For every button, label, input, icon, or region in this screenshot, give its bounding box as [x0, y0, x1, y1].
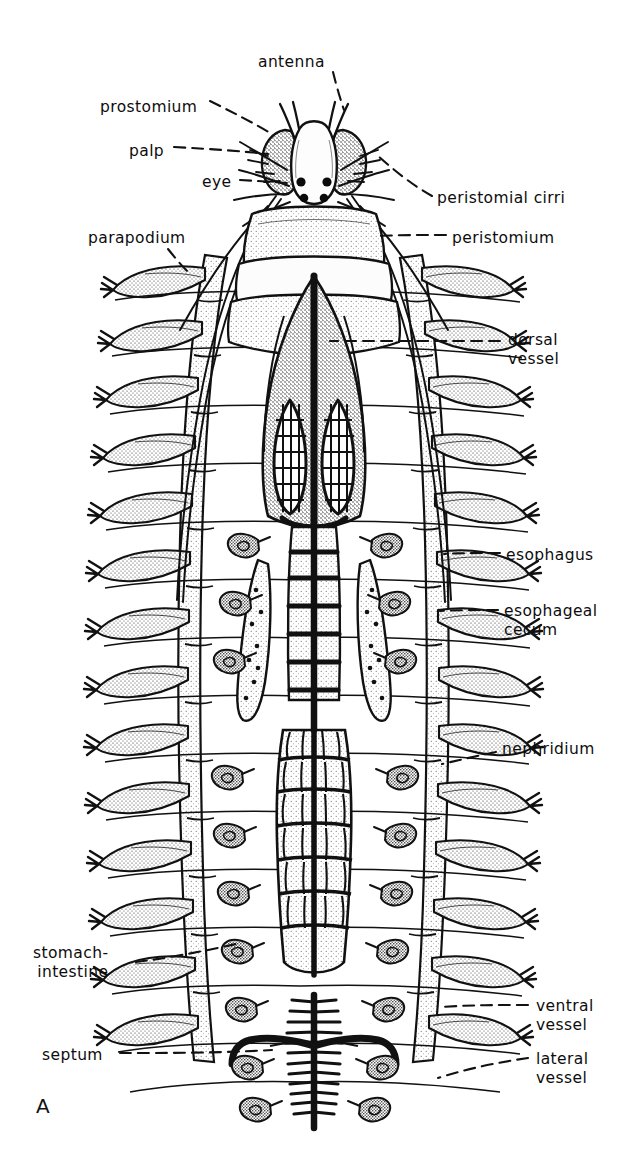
label-esophagus: esophagus [506, 546, 594, 565]
label-esophageal-cecum: esophageal cecum [504, 602, 597, 640]
label-parapodium: parapodium [88, 229, 186, 248]
label-septum: septum [42, 1046, 103, 1065]
label-lateral-vessel: lateral vessel [536, 1050, 588, 1088]
leader-esophagus [444, 553, 500, 554]
prostomium [291, 121, 336, 204]
label-antenna: antenna [258, 53, 325, 72]
label-eye: eye [202, 173, 231, 192]
label-peristomium: peristomium [452, 229, 554, 248]
label-nephridium: nephridium [502, 740, 595, 759]
label-palp: palp [129, 142, 164, 161]
label-stomach-intestine: stomach- intestine [33, 944, 108, 982]
panel-label: A [36, 1094, 50, 1118]
label-prostomium: prostomium [100, 98, 197, 117]
label-peristomial-cirri: peristomial cirri [437, 189, 565, 208]
label-ventral-vessel: ventral vessel [536, 997, 594, 1035]
anatomical-illustration [0, 0, 627, 1160]
figure-panel: antenna prostomium palp eye parapodium s… [0, 0, 627, 1160]
label-dorsal-vessel: dorsal vessel [508, 331, 559, 369]
